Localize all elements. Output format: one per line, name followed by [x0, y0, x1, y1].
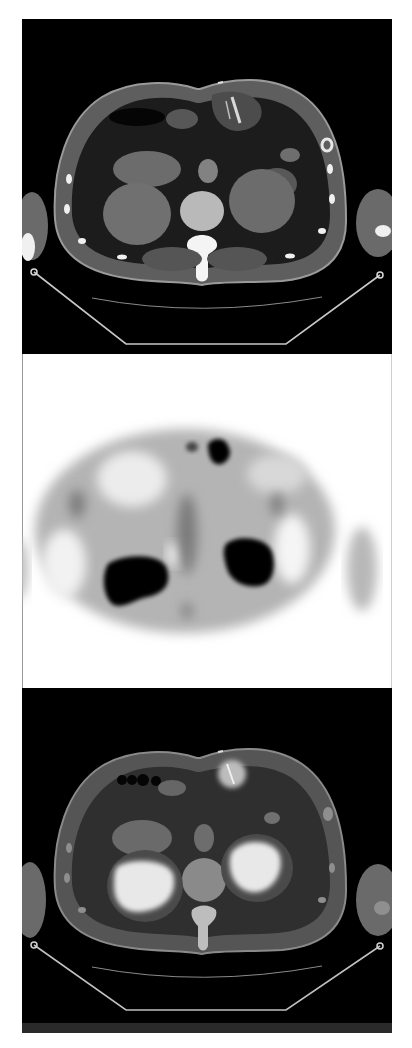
pet-slice-panel — [22, 354, 392, 688]
table-arc — [92, 966, 322, 977]
pet-ct-figure — [0, 0, 412, 1048]
gastric-uptake — [218, 760, 246, 788]
pet-axial-image — [22, 354, 392, 688]
fused-axial-image — [22, 688, 392, 1033]
ct-axial-image — [22, 19, 392, 354]
fused-slice-panel — [22, 688, 392, 1033]
left-kidney — [103, 183, 171, 245]
table-arc — [92, 297, 322, 308]
vertebral-body — [180, 191, 224, 231]
right-arm-uptake — [347, 527, 377, 611]
right-arm — [356, 864, 392, 936]
right-kidney — [229, 169, 295, 233]
vertebral-body — [182, 858, 226, 902]
left-arm — [22, 862, 46, 938]
right-arm — [356, 189, 392, 257]
ct-slice-panel — [22, 19, 392, 354]
image-noise-band — [22, 1023, 392, 1033]
